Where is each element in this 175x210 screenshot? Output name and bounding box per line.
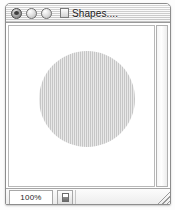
resize-grip-icon[interactable]: [156, 190, 170, 205]
vertical-scrollbar[interactable]: [156, 25, 168, 187]
app-root: Shapes.... 100%: [0, 0, 175, 210]
drawing-canvas[interactable]: [8, 25, 155, 187]
zoom-input[interactable]: 100%: [9, 190, 53, 205]
document-icon: [60, 8, 69, 18]
zoom-button[interactable]: [41, 8, 52, 19]
window-titlebar[interactable]: Shapes....: [6, 4, 170, 23]
window-controls: [11, 8, 52, 19]
minimize-button[interactable]: [26, 8, 37, 19]
window-body: 100%: [6, 23, 170, 205]
page-view-button[interactable]: [57, 190, 73, 205]
document-window: Shapes.... 100%: [5, 3, 171, 205]
close-button[interactable]: [11, 8, 22, 19]
gray-circle-shape[interactable]: [39, 51, 135, 147]
status-bar: 100%: [6, 188, 170, 205]
window-title: Shapes....: [72, 8, 118, 19]
zoom-level-value: 100%: [20, 193, 41, 202]
page-icon: [62, 193, 69, 202]
window-title-area: Shapes....: [60, 8, 118, 19]
status-bar-filler: [75, 190, 156, 205]
